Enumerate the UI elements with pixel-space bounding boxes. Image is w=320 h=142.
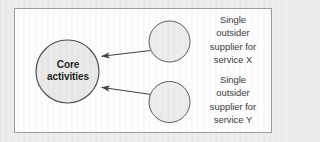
supplier-y-caption-line-3: supplier for bbox=[196, 100, 270, 113]
supplier-y-caption: Single outsider supplier for service Y bbox=[196, 73, 270, 127]
supplier-y-caption-line-2: outsider bbox=[196, 86, 270, 99]
core-activities-line-1: Core bbox=[36, 59, 100, 71]
supplier-y-circle bbox=[149, 82, 190, 123]
supplier-x-caption-line-2: outsider bbox=[196, 26, 270, 39]
core-activities-label: Core activities bbox=[36, 59, 100, 83]
supplier-x-caption-line-1: Single bbox=[196, 13, 270, 26]
supplier-x-caption: Single outsider supplier for service X bbox=[196, 13, 270, 67]
supplier-y-caption-line-1: Single bbox=[196, 73, 270, 86]
core-activities-line-2: activities bbox=[36, 71, 100, 83]
supplier-y-caption-line-4: service Y bbox=[196, 113, 270, 126]
arrow-supplier-y-to-core bbox=[102, 87, 152, 94]
supplier-x-circle bbox=[149, 21, 190, 62]
supplier-x-caption-line-4: service X bbox=[196, 53, 270, 66]
arrow-supplier-x-to-core bbox=[102, 51, 151, 57]
supplier-x-caption-line-3: supplier for bbox=[196, 40, 270, 53]
